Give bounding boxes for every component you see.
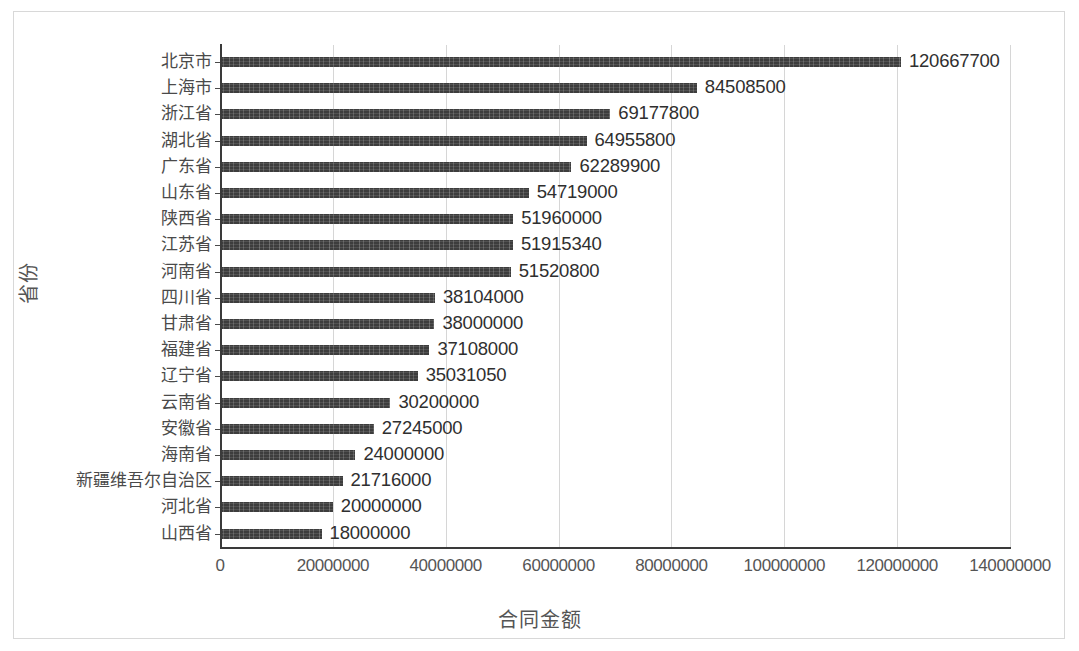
bar xyxy=(220,450,355,460)
category-label: 新疆维吾尔自治区 xyxy=(0,472,220,489)
gridline xyxy=(1010,45,1011,548)
y-axis-line xyxy=(220,44,222,549)
category-label: 广东省 xyxy=(0,158,220,175)
x-tick-label: 120000000 xyxy=(856,557,938,574)
x-tick-label: 140000000 xyxy=(969,557,1051,574)
bar xyxy=(220,424,374,434)
bar xyxy=(220,109,610,119)
x-tick-label: 40000000 xyxy=(409,557,481,574)
bar xyxy=(220,319,434,329)
category-label: 上海市 xyxy=(0,79,220,96)
bar-value-label: 27245000 xyxy=(382,419,463,438)
bar-value-label: 20000000 xyxy=(341,497,422,516)
bar-value-label: 51915340 xyxy=(521,235,602,254)
bar xyxy=(220,371,418,381)
bar xyxy=(220,240,513,250)
bar-value-label: 84508500 xyxy=(705,78,786,97)
x-tick-label: 60000000 xyxy=(522,557,594,574)
category-label: 北京市 xyxy=(0,53,220,70)
bar xyxy=(220,136,587,146)
y-axis-title: 省份 xyxy=(13,262,42,304)
bar xyxy=(220,502,333,512)
category-label: 河北省 xyxy=(0,498,220,515)
bar-value-label: 69177800 xyxy=(618,104,699,123)
x-tick-label: 0 xyxy=(215,557,224,574)
x-axis-title: 合同金额 xyxy=(0,604,1079,633)
x-tick-label: 100000000 xyxy=(744,557,826,574)
category-label: 湖北省 xyxy=(0,132,220,149)
gridline xyxy=(784,45,785,548)
bar-value-label: 64955800 xyxy=(595,131,676,150)
bar xyxy=(220,293,435,303)
category-label: 海南省 xyxy=(0,446,220,463)
bar-value-label: 35031050 xyxy=(426,366,507,385)
gridline xyxy=(897,45,898,548)
plot-area xyxy=(220,45,1010,548)
bar-chart-figure: 北京市上海市浙江省湖北省广东省山东省陕西省江苏省河南省四川省甘肃省福建省辽宁省云… xyxy=(0,0,1079,651)
bar xyxy=(220,267,511,277)
category-label: 陕西省 xyxy=(0,210,220,227)
bar xyxy=(220,398,390,408)
bar-value-label: 18000000 xyxy=(330,524,411,543)
category-label: 江苏省 xyxy=(0,236,220,253)
category-label: 辽宁省 xyxy=(0,367,220,384)
bar xyxy=(220,83,697,93)
bar-value-label: 21716000 xyxy=(351,471,432,490)
bar-value-label: 37108000 xyxy=(437,340,518,359)
category-label: 山西省 xyxy=(0,525,220,542)
bar xyxy=(220,345,429,355)
bar xyxy=(220,188,529,198)
bar-value-label: 38000000 xyxy=(442,314,523,333)
x-tick-label: 20000000 xyxy=(297,557,369,574)
bar-value-label: 38104000 xyxy=(443,288,524,307)
bar-value-label: 54719000 xyxy=(537,183,618,202)
bar-value-label: 30200000 xyxy=(398,393,479,412)
category-label: 浙江省 xyxy=(0,105,220,122)
bar xyxy=(220,57,901,67)
bar-value-label: 24000000 xyxy=(363,445,444,464)
category-label: 安徽省 xyxy=(0,420,220,437)
bar xyxy=(220,162,571,172)
x-axis-line xyxy=(220,547,1011,549)
category-label: 福建省 xyxy=(0,341,220,358)
bar xyxy=(220,529,322,539)
category-label: 云南省 xyxy=(0,394,220,411)
bar-value-label: 51960000 xyxy=(521,209,602,228)
category-label: 甘肃省 xyxy=(0,315,220,332)
x-tick-label: 80000000 xyxy=(635,557,707,574)
bar-value-label: 62289900 xyxy=(579,157,660,176)
bar-value-label: 51520800 xyxy=(519,262,600,281)
bar xyxy=(220,476,343,486)
bar xyxy=(220,214,513,224)
gridline xyxy=(559,45,560,548)
category-label: 山东省 xyxy=(0,184,220,201)
bar-value-label: 120667700 xyxy=(909,52,1000,71)
